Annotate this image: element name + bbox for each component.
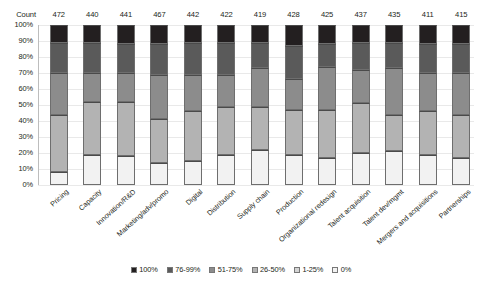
bar-segment xyxy=(150,75,168,120)
bar-segment xyxy=(117,73,135,102)
bar-segment xyxy=(419,111,437,154)
legend-label: 100% xyxy=(139,266,158,274)
y-axis-tick-label: 80% xyxy=(19,53,34,61)
legend-swatch-icon xyxy=(131,267,137,273)
legend-label: 76-99% xyxy=(175,266,200,274)
bar-segment xyxy=(385,151,403,185)
bar xyxy=(117,25,135,185)
plot-area xyxy=(38,25,474,185)
bar-segment xyxy=(150,163,168,185)
bar-segment xyxy=(251,25,269,43)
bar-segment xyxy=(184,161,202,185)
bar-segment xyxy=(385,43,403,69)
legend-swatch-icon xyxy=(209,267,215,273)
bar xyxy=(50,25,68,185)
legend-label: 26-50% xyxy=(260,266,285,274)
bar-segment xyxy=(83,155,101,185)
bar xyxy=(419,25,437,185)
bar-segment xyxy=(50,172,68,185)
bar-segment xyxy=(452,44,470,73)
bar-segment xyxy=(318,110,336,158)
bar-segment xyxy=(318,67,336,110)
legend-item[interactable]: 76-99% xyxy=(167,266,200,274)
count-value: 435 xyxy=(379,9,409,20)
legend: 100%76-99%51-75%26-50%1-25%0% xyxy=(0,266,482,274)
legend-item[interactable]: 1-25% xyxy=(294,266,323,274)
bar-segment xyxy=(452,115,470,158)
bar-segment xyxy=(352,25,370,43)
bar-segment xyxy=(217,107,235,155)
y-axis-tick-label: 60% xyxy=(19,85,34,93)
count-value: 442 xyxy=(178,9,208,20)
legend-label: 51-75% xyxy=(218,266,243,274)
count-value: 415 xyxy=(446,9,476,20)
bar-segment xyxy=(385,25,403,43)
count-value: 441 xyxy=(111,9,141,20)
bar-segment xyxy=(352,103,370,153)
y-axis-tick-label: 100% xyxy=(14,21,33,29)
legend-item[interactable]: 0% xyxy=(332,266,351,274)
y-axis: 0%10%20%30%40%50%60%70%80%90%100% xyxy=(0,25,36,185)
count-value: 467 xyxy=(144,9,174,20)
bar-segment xyxy=(419,25,437,44)
legend-swatch-icon xyxy=(332,267,338,273)
legend-item[interactable]: 26-50% xyxy=(252,266,285,274)
bar xyxy=(385,25,403,185)
y-axis-tick-label: 50% xyxy=(19,101,34,109)
bar-segment xyxy=(150,119,168,162)
legend-item[interactable]: 51-75% xyxy=(209,266,242,274)
x-axis-category-label: Mergers and acquisitions xyxy=(375,188,439,247)
bar xyxy=(83,25,101,185)
bar-segment xyxy=(251,68,269,106)
bar-segment xyxy=(184,111,202,161)
count-row: Count 4724404414674424224194284254374354… xyxy=(0,9,482,21)
bar-segment xyxy=(150,44,168,74)
y-axis-tick-label: 70% xyxy=(19,69,34,77)
bar-segment xyxy=(285,25,303,46)
bar-segment xyxy=(50,25,68,43)
bar-segment xyxy=(251,43,269,69)
bar-segment xyxy=(50,115,68,173)
x-axis-category-label: Supply chain xyxy=(236,188,271,221)
x-axis-category-label: Digital xyxy=(184,188,204,207)
bar-segment xyxy=(184,25,202,43)
y-axis-line xyxy=(38,25,39,185)
bar-segment xyxy=(83,43,101,73)
bar-segment xyxy=(419,155,437,185)
bar-segment xyxy=(285,110,303,155)
legend-swatch-icon xyxy=(167,267,173,273)
bar-segment xyxy=(217,75,235,107)
bar-segment xyxy=(419,44,437,73)
bar-segment xyxy=(184,75,202,112)
bar-segment xyxy=(385,68,403,114)
bar-segment xyxy=(452,73,470,115)
bar-segment xyxy=(217,155,235,185)
legend-label: 1-25% xyxy=(302,266,323,274)
count-row-label: Count xyxy=(4,9,36,20)
bar xyxy=(352,25,370,185)
x-axis-category-label: Pricing xyxy=(49,188,70,208)
bar-segment xyxy=(83,73,101,102)
legend-item[interactable]: 100% xyxy=(131,266,158,274)
bar-segment xyxy=(452,25,470,44)
bar xyxy=(251,25,269,185)
y-axis-tick-label: 40% xyxy=(19,117,34,125)
x-axis-category-label: Organizational redesign xyxy=(278,188,339,244)
bar-segment xyxy=(285,79,303,109)
count-value: 419 xyxy=(245,9,275,20)
gridline xyxy=(38,185,474,186)
count-value: 472 xyxy=(44,9,74,20)
y-axis-tick-label: 10% xyxy=(19,165,34,173)
bar-segment xyxy=(318,158,336,185)
bar xyxy=(452,25,470,185)
count-value: 411 xyxy=(413,9,443,20)
bar xyxy=(150,25,168,185)
count-value: 428 xyxy=(279,9,309,20)
y-axis-tick-label: 30% xyxy=(19,133,34,141)
bar-segment xyxy=(117,156,135,185)
legend-label: 0% xyxy=(341,266,351,274)
x-axis-category-label: Partnerships xyxy=(438,188,473,221)
bar xyxy=(318,25,336,185)
bar-segment xyxy=(184,43,202,75)
bar-segment xyxy=(285,155,303,185)
